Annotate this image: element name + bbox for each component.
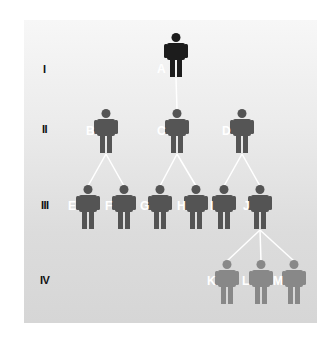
person-label-K: K	[207, 274, 216, 288]
person-D-icon	[230, 109, 254, 153]
person-M-icon	[282, 260, 306, 304]
connector-lines	[88, 78, 294, 261]
person-E-icon	[76, 185, 100, 229]
pedigree-diagram	[0, 0, 332, 344]
person-label-J: J	[243, 199, 250, 213]
person-label-L: L	[242, 274, 249, 288]
person-label-C: C	[157, 124, 166, 138]
generation-label-III: III	[41, 199, 49, 211]
person-K-icon	[215, 260, 239, 304]
person-label-E: E	[68, 199, 76, 213]
person-B-icon	[94, 109, 118, 153]
person-J-icon	[248, 185, 272, 229]
generation-label-II: II	[42, 123, 47, 135]
person-label-B: B	[86, 124, 95, 138]
person-G-icon	[148, 185, 172, 229]
person-F-icon	[112, 185, 136, 229]
person-label-G: G	[140, 199, 149, 213]
person-label-H: H	[177, 199, 186, 213]
person-label-A: A	[157, 62, 166, 76]
generation-label-I: I	[43, 63, 46, 75]
person-C-icon	[165, 109, 189, 153]
person-L-icon	[249, 260, 273, 304]
person-H-icon	[184, 185, 208, 229]
person-label-D: D	[222, 124, 231, 138]
generation-label-IV: IV	[40, 274, 49, 286]
person-label-M: M	[273, 274, 283, 288]
person-A-icon	[164, 33, 188, 77]
person-label-I: I	[210, 199, 213, 213]
person-label-F: F	[105, 199, 112, 213]
person-I-icon	[212, 185, 236, 229]
